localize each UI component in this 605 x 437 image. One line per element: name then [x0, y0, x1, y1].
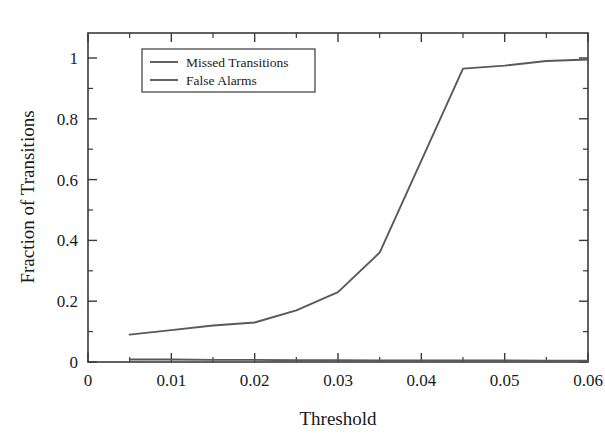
- chart-legend: Missed Transitions False Alarms: [142, 49, 315, 92]
- x-tick-label: 0.03: [323, 371, 353, 390]
- series-line-false-alarms: [130, 360, 588, 361]
- y-tick-label: 0.2: [57, 292, 78, 311]
- y-axis-tick-labels: 00.20.40.60.81: [57, 49, 79, 372]
- y-axis-ticks: [88, 58, 588, 362]
- y-tick-label: 0.4: [57, 231, 79, 250]
- y-tick-label: 0.8: [57, 110, 78, 129]
- x-tick-label: 0.01: [156, 371, 186, 390]
- x-tick-label: 0: [84, 371, 93, 390]
- x-tick-label: 0.05: [490, 371, 520, 390]
- y-tick-label: 0: [70, 353, 79, 372]
- data-series-group: [130, 60, 588, 361]
- y-tick-label: 1: [70, 49, 79, 68]
- x-axis-tick-labels: 00.010.020.030.040.050.06: [84, 371, 603, 390]
- y-axis-title: Fraction of Transitions: [17, 110, 38, 283]
- x-tick-label: 0.04: [406, 371, 436, 390]
- series-line-missed-transitions: [130, 60, 588, 335]
- x-tick-label: 0.06: [573, 371, 603, 390]
- chart-figure: 00.010.020.030.040.050.06 00.20.40.60.81…: [0, 0, 605, 437]
- line-chart-svg: 00.010.020.030.040.050.06 00.20.40.60.81…: [0, 0, 605, 437]
- x-axis-title: Threshold: [299, 408, 377, 429]
- y-tick-label: 0.6: [57, 171, 78, 190]
- x-tick-label: 0.02: [240, 371, 270, 390]
- legend-label-missed-transitions: Missed Transitions: [186, 55, 288, 70]
- legend-label-false-alarms: False Alarms: [186, 73, 257, 88]
